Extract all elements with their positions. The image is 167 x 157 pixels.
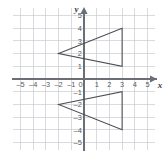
tick-label-y: 2 (78, 49, 82, 58)
tick-label-x: 2 (107, 80, 111, 89)
upper-triangle (59, 28, 123, 66)
tick-label-y: 4 (78, 24, 82, 33)
tick-label-y: 1 (78, 62, 82, 71)
lower-triangle (59, 92, 123, 130)
tick-label-x: 4 (133, 80, 137, 89)
tick-label-y: –3 (74, 113, 82, 122)
tick-label-x: –3 (42, 80, 50, 89)
tick-label-y: –4 (74, 126, 82, 135)
tick-label-y: 3 (78, 37, 82, 46)
coordinate-plane-figure: –5–4–3–2–101234554321–1–2–3–4–5 xy (0, 0, 167, 157)
tick-label-x: 1 (95, 80, 99, 89)
tick-label-x: –2 (54, 80, 62, 89)
tick-label-y: –5 (74, 138, 82, 147)
axis-names-layer: xy (74, 4, 163, 90)
tick-label-x: –4 (29, 80, 37, 89)
tick-label-x: –5 (16, 80, 24, 89)
tick-label-x: 5 (145, 80, 149, 89)
tick-label-y: –2 (74, 100, 82, 109)
tick-label-x: 3 (120, 80, 124, 89)
tick-label-y: –1 (74, 88, 82, 97)
x-axis-arrowhead (150, 75, 157, 82)
coordinate-plane-svg: –5–4–3–2–101234554321–1–2–3–4–5 xy (0, 0, 167, 157)
x-axis-label: x (157, 80, 163, 90)
